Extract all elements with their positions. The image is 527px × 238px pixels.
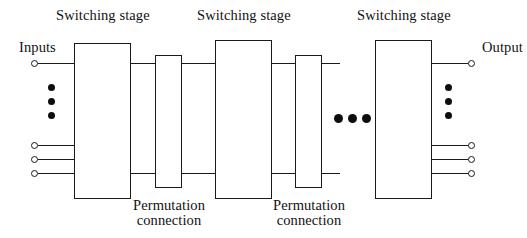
inputs-label: Inputs bbox=[19, 40, 56, 55]
permutation-connection-2-label-line2: connection bbox=[268, 213, 350, 228]
wire-stage2-perm2-bottom bbox=[270, 173, 297, 174]
output-wire-3 bbox=[431, 159, 473, 160]
input-terminal-4[interactable] bbox=[31, 170, 38, 177]
output-terminal-4[interactable] bbox=[468, 170, 475, 177]
permutation-connection-2-box[interactable] bbox=[295, 55, 322, 188]
input-ellipsis-dot-3 bbox=[48, 112, 55, 119]
output-wire-1 bbox=[431, 63, 473, 64]
input-terminal-3[interactable] bbox=[31, 156, 38, 163]
permutation-connection-2-label: Permutation connection bbox=[268, 198, 350, 228]
switching-stage-1-box[interactable] bbox=[74, 43, 131, 199]
input-wire-3 bbox=[38, 159, 76, 160]
permutation-connection-1-box[interactable] bbox=[155, 55, 182, 188]
output-ellipsis-dot-1 bbox=[445, 84, 452, 91]
wire-stage1-perm1-bottom bbox=[130, 173, 157, 174]
output-ellipsis-dot-2 bbox=[445, 98, 452, 105]
switching-stage-3-label: Switching stage bbox=[357, 8, 451, 23]
wire-perm2-right-bottom bbox=[320, 173, 340, 174]
permutation-connection-2-label-line1: Permutation bbox=[268, 198, 350, 213]
permutation-connection-1-label: Permutation connection bbox=[128, 198, 210, 228]
stage-ellipsis-dot-1 bbox=[334, 114, 343, 123]
outputs-label: Output bbox=[482, 40, 523, 55]
output-terminal-1[interactable] bbox=[468, 60, 475, 67]
switching-stage-2-label: Switching stage bbox=[197, 8, 291, 23]
input-terminal-1[interactable] bbox=[31, 60, 38, 67]
output-ellipsis-dot-3 bbox=[445, 112, 452, 119]
wire-stage2-perm2-top bbox=[270, 63, 297, 64]
wire-perm2-right-top bbox=[320, 63, 340, 64]
switching-stage-2-box[interactable] bbox=[215, 40, 272, 199]
input-ellipsis-dot-1 bbox=[48, 84, 55, 91]
stage-ellipsis-dot-3 bbox=[362, 114, 371, 123]
output-wire-2 bbox=[431, 145, 473, 146]
switching-network-diagram: Switching stage Switching stage Switchin… bbox=[0, 0, 527, 238]
permutation-connection-1-label-line2: connection bbox=[128, 213, 210, 228]
switching-stage-3-box[interactable] bbox=[375, 40, 432, 199]
input-terminal-2[interactable] bbox=[31, 142, 38, 149]
input-wire-4 bbox=[38, 173, 76, 174]
switching-stage-1-label: Switching stage bbox=[56, 8, 150, 23]
input-wire-1 bbox=[38, 63, 76, 64]
stage-ellipsis-dot-2 bbox=[348, 114, 357, 123]
output-wire-4 bbox=[431, 173, 473, 174]
wire-stage1-perm1-top bbox=[130, 63, 157, 64]
input-ellipsis-dot-2 bbox=[48, 98, 55, 105]
wire-perm1-stage2-bottom bbox=[180, 173, 217, 174]
output-terminal-3[interactable] bbox=[468, 156, 475, 163]
permutation-connection-1-label-line1: Permutation bbox=[128, 198, 210, 213]
input-wire-2 bbox=[38, 145, 76, 146]
wire-perm1-stage2-top bbox=[180, 63, 217, 64]
output-terminal-2[interactable] bbox=[468, 142, 475, 149]
